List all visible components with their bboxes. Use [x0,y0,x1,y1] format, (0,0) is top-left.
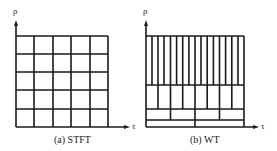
stft-y-label: ρ [13,6,18,16]
stft-caption: (a) STFT [54,134,91,145]
wt-caption: (b) WT [190,134,220,145]
y-axis-arrow-icon [14,20,18,26]
tiling-diagram [0,0,277,151]
x-axis-arrow-icon [124,125,130,129]
wt-y-label: ρ [143,6,148,16]
wt-x-label: τ [261,121,265,131]
stft-x-label: τ [132,121,136,131]
wt-panel [146,24,255,127]
stft-panel [16,24,126,127]
y-axis-arrow-icon [144,20,148,26]
x-axis-arrow-icon [253,125,259,129]
